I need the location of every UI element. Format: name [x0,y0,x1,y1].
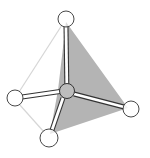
bond-left [22,92,60,98]
edge-top-left [19,25,62,92]
tetrahedron-diagram [0,0,150,158]
atom-bottom [40,129,58,147]
central-atom [60,84,75,99]
shaded-face [50,22,128,134]
bond-top [66,27,67,84]
atom-right [123,101,139,117]
edge-left-bottom [19,104,44,132]
atom-top [58,11,74,27]
atom-left [7,90,23,106]
